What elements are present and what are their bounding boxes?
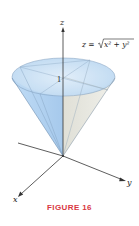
cone-surface <box>12 58 115 156</box>
svg-text:z =: z = <box>81 40 95 49</box>
cone-figure: z y x 1 z = x² + y² <box>0 0 139 226</box>
equation-label: z = x² + y² <box>81 39 134 49</box>
z-axis-arrow-icon <box>61 27 64 32</box>
y-axis-arrow-icon <box>119 177 126 181</box>
figure-caption: FIGURE 16 <box>0 203 139 212</box>
y-axis <box>63 156 123 180</box>
height-one-label: 1 <box>57 75 61 84</box>
x-axis <box>21 156 63 194</box>
origin-point <box>62 155 64 157</box>
z-axis-label: z <box>59 18 65 27</box>
y-axis-label: y <box>126 178 132 187</box>
svg-text:x² + y²: x² + y² <box>104 40 130 49</box>
